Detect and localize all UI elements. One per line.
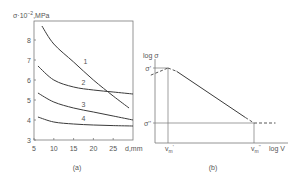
curve-3 bbox=[38, 93, 133, 120]
panel-b-marks: σ'σ''vm'vm'' bbox=[144, 65, 276, 155]
curve-4 bbox=[38, 117, 133, 126]
y-tick-label: 7 bbox=[27, 57, 31, 64]
panel-a-xlabel: d,mm bbox=[125, 145, 143, 152]
curve-1 bbox=[42, 26, 129, 108]
x-tick-label: 15 bbox=[70, 145, 78, 152]
y-tick-label: 4 bbox=[27, 117, 31, 124]
x-tick-label: 5 bbox=[32, 145, 36, 152]
curve-label-4: 4 bbox=[82, 115, 86, 122]
figure: σ·10−2,MPa d,mm 510152025345678 1234 (a)… bbox=[0, 0, 297, 175]
panel-b-ylabel: log σ bbox=[143, 52, 159, 60]
x-tick-label: 20 bbox=[90, 145, 98, 152]
segment-slope bbox=[177, 71, 246, 117]
segment-knee-dashed bbox=[168, 68, 177, 71]
y-tick-label: 8 bbox=[27, 37, 31, 44]
segment-rise-dashed bbox=[151, 68, 168, 75]
x-tick-label: 25 bbox=[109, 145, 117, 152]
curve-label-3: 3 bbox=[82, 101, 86, 108]
curve-label-1: 1 bbox=[84, 58, 88, 65]
y-tick-label: 6 bbox=[27, 77, 31, 84]
panel-a-curves: 1234 bbox=[38, 26, 133, 126]
panel-a-ylabel: σ·10−2,MPa bbox=[13, 10, 50, 19]
x-marker-label: vm'' bbox=[251, 144, 261, 154]
x-tick-label: 10 bbox=[50, 145, 58, 152]
y-marker-label: σ' bbox=[145, 65, 151, 72]
curve-2 bbox=[38, 66, 133, 94]
y-marker-label: σ'' bbox=[144, 120, 151, 127]
panel-a: σ·10−2,MPa d,mm 510152025345678 1234 (a) bbox=[13, 10, 143, 172]
x-marker-label: vm' bbox=[165, 144, 174, 154]
panel-b-caption: (b) bbox=[209, 164, 218, 172]
segment-slope-end-dashed bbox=[245, 118, 254, 124]
y-tick-label: 3 bbox=[27, 137, 31, 144]
panel-a-caption: (a) bbox=[73, 164, 82, 172]
panel-b-xlabel: log V bbox=[269, 145, 285, 153]
y-tick-label: 5 bbox=[27, 97, 31, 104]
curve-label-2: 2 bbox=[82, 79, 86, 86]
panel-b: log σ log V σ'σ''vm'vm'' (b) bbox=[143, 52, 288, 172]
